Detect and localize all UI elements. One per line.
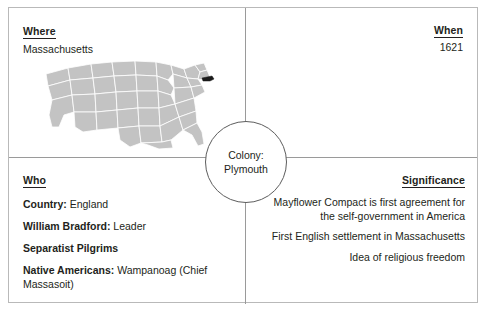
- who-row: Separatist Pilgrims: [23, 241, 228, 255]
- who-row-label: Separatist Pilgrims: [23, 242, 118, 254]
- graphic-organizer: Where Massachusetts: [8, 7, 478, 303]
- who-row: William Bradford: Leader: [23, 219, 228, 233]
- when-heading: When: [434, 24, 463, 38]
- who-heading: Who: [23, 174, 46, 188]
- who-row-value: England: [70, 198, 109, 210]
- center-topic-line-2: Plymouth: [224, 162, 268, 176]
- who-list: Country: England William Bradford: Leade…: [23, 197, 228, 291]
- significance-item: Mayflower Compact is first agreement for…: [257, 196, 465, 223]
- where-heading: Where: [23, 25, 56, 39]
- united-states-map: [37, 52, 223, 152]
- significance-heading: Significance: [402, 174, 465, 188]
- when-text-block: When 1621: [434, 20, 463, 54]
- who-row: Native Americans: Wampanoag (Chief Massa…: [23, 263, 228, 291]
- who-text-block: Who Country: England William Bradford: L…: [23, 170, 228, 291]
- who-row-label: Country:: [23, 198, 67, 210]
- who-row: Country: England: [23, 197, 228, 211]
- where-text-block: Where Massachusetts: [23, 21, 93, 56]
- who-row-value: Leader: [113, 220, 146, 232]
- significance-item: First English settlement in Massachusett…: [257, 230, 465, 244]
- when-value: 1621: [434, 41, 463, 54]
- quadrant-where: Where Massachusetts: [9, 8, 245, 157]
- who-row-label: Native Americans:: [23, 264, 114, 276]
- center-topic-circle: Colony: Plymouth: [205, 121, 287, 203]
- significance-item: Idea of religious freedom: [257, 251, 465, 265]
- significance-list: Mayflower Compact is first agreement for…: [257, 196, 465, 264]
- significance-text-block: Significance Mayflower Compact is first …: [257, 170, 465, 264]
- who-row-label: William Bradford:: [23, 220, 110, 232]
- quadrant-when: When 1621: [246, 8, 477, 157]
- center-topic-line-1: Colony:: [228, 148, 264, 162]
